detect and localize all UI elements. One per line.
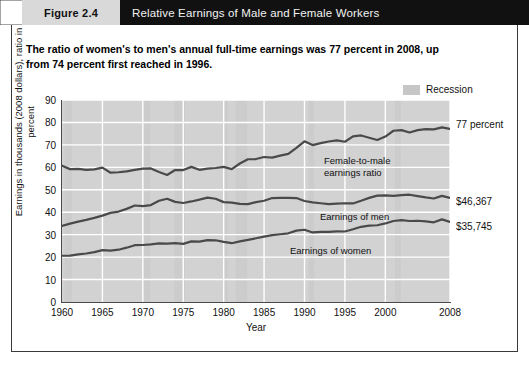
y-axis-ticks: 0102030405060708090: [26, 100, 56, 302]
x-tick-label: 1975: [172, 307, 194, 318]
y-tick-label: 0: [26, 297, 56, 308]
series-line-2: [62, 219, 450, 255]
y-tick-label: 80: [26, 117, 56, 128]
x-axis-ticks: 1960196519701975198019851990199520002008: [62, 303, 450, 319]
y-tick-label: 70: [26, 139, 56, 150]
annotation-earnings-of-men: Earnings of men: [320, 211, 389, 223]
plot-area: [62, 100, 450, 302]
annotation-line-1: Female-to-male: [324, 155, 391, 166]
end-label-men: $46,367: [456, 196, 492, 207]
y-tick-label: 90: [26, 95, 56, 106]
y-tick-label: 40: [26, 207, 56, 218]
y-tick-label: 10: [26, 274, 56, 285]
x-tick-label: 1970: [132, 307, 154, 318]
x-tick-label: 1980: [213, 307, 235, 318]
recession-band: [236, 100, 247, 302]
end-label-women: $35,745: [456, 221, 492, 232]
x-tick-label: 1960: [51, 307, 73, 318]
y-tick-label: 60: [26, 162, 56, 173]
end-label-ratio: 77 percent: [456, 119, 503, 130]
x-tick-label: 2008: [439, 307, 461, 318]
x-tick-label: 1990: [293, 307, 315, 318]
annotation-line-2: earnings ratio: [324, 167, 382, 178]
y-tick-label: 50: [26, 184, 56, 195]
x-axis-label: Year: [62, 322, 450, 333]
figure-page: Figure 2.4 Relative Earnings of Male and…: [0, 0, 529, 367]
chart-area: Earnings in thousands (2008 dollars), ra…: [0, 0, 529, 367]
x-tick-label: 1995: [334, 307, 356, 318]
recession-band: [64, 100, 71, 302]
y-tick-label: 20: [26, 252, 56, 263]
y-tick-label: 30: [26, 229, 56, 240]
annotation-earnings-of-women: Earnings of women: [290, 245, 371, 257]
x-tick-label: 1985: [253, 307, 275, 318]
x-tick-label: 1965: [91, 307, 113, 318]
annotation-female-to-male: Female-to-male earnings ratio: [324, 155, 391, 178]
source-note-cutoff: [8, 360, 528, 367]
plot-svg: [62, 100, 450, 302]
x-tick-label: 2000: [374, 307, 396, 318]
